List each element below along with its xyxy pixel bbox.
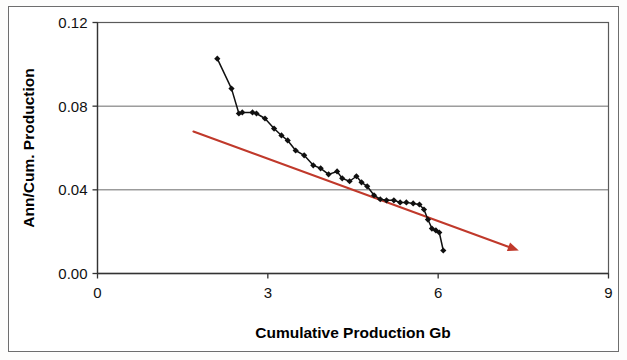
series-markers bbox=[214, 56, 446, 254]
data-point-marker bbox=[228, 86, 234, 92]
plot-area-rect bbox=[98, 23, 609, 274]
x-tick-label: 6 bbox=[434, 284, 442, 301]
data-point-marker bbox=[397, 199, 403, 205]
data-point-marker bbox=[440, 247, 446, 253]
x-tick-label: 0 bbox=[93, 284, 101, 301]
data-point-marker bbox=[403, 199, 409, 205]
x-axis-ticks: 0369 bbox=[93, 274, 612, 301]
trendline-group bbox=[193, 131, 518, 251]
y-tick-label: 0.00 bbox=[58, 265, 87, 282]
x-axis-title: Cumulative Production Gb bbox=[255, 324, 450, 341]
line-chart: 0.000.040.080.12 0369 Cumulative Product… bbox=[0, 0, 627, 360]
gridlines bbox=[98, 23, 609, 274]
x-tick-label: 3 bbox=[264, 284, 272, 301]
y-axis-ticks: 0.000.040.080.12 bbox=[58, 14, 97, 282]
y-axis-title: Ann/Cum. Production bbox=[20, 68, 37, 227]
data-point-marker bbox=[214, 56, 220, 62]
trendline-arrowhead-icon bbox=[507, 242, 519, 251]
series-line bbox=[217, 59, 443, 251]
y-tick-label: 0.04 bbox=[58, 181, 87, 198]
data-point-marker bbox=[410, 200, 416, 206]
x-tick-label: 9 bbox=[604, 284, 612, 301]
y-tick-label: 0.12 bbox=[58, 14, 87, 31]
chart-figure: 0.000.040.080.12 0369 Cumulative Product… bbox=[0, 0, 627, 360]
y-tick-label: 0.08 bbox=[58, 98, 87, 115]
data-point-marker bbox=[391, 197, 397, 203]
plot-area-border bbox=[98, 23, 609, 274]
data-series-group bbox=[214, 56, 446, 254]
